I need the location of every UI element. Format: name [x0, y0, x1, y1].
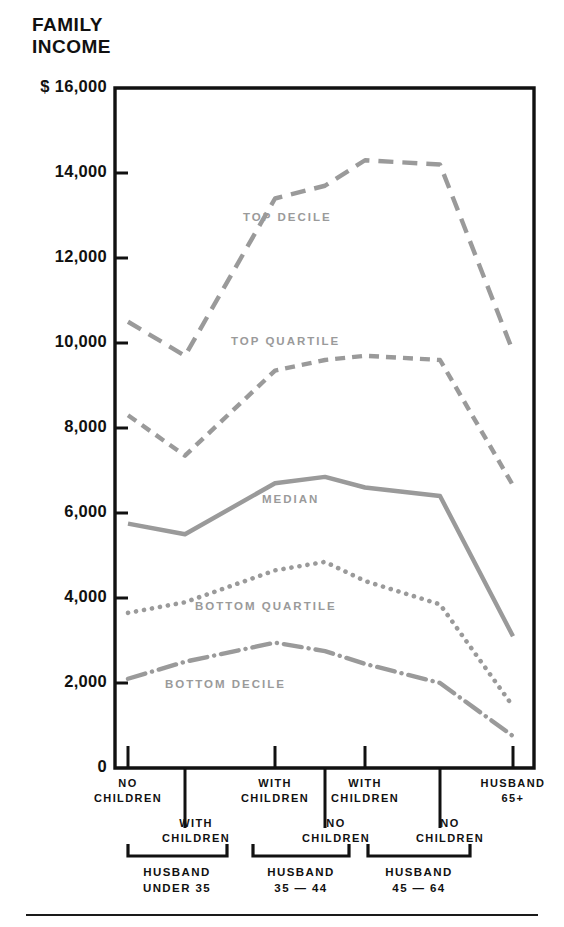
x-category-label: WITH CHILDREN [150, 816, 242, 846]
x-category-label: WITH CHILDREN [319, 776, 411, 806]
y-axis-tick-label: 12,000 [3, 247, 107, 266]
x-group-label: HUSBAND 45 — 64 [349, 864, 489, 896]
family-income-chart: FAMILY INCOME $ 16,00014,00012,00010,000… [0, 0, 564, 927]
series-label-bottom-decile: BOTTOM DECILE [165, 678, 286, 690]
y-axis-tick-label: 10,000 [3, 332, 107, 351]
series-label-median: MEDIAN [262, 493, 319, 505]
series-label-top-decile: TOP DECILE [243, 211, 332, 223]
series-line-top-quartile [128, 356, 513, 486]
y-axis-tick-label: 4,000 [3, 587, 107, 606]
series-line-top-decile [128, 160, 513, 356]
footer-divider [26, 914, 538, 916]
series-label-top-quartile: TOP QUARTILE [231, 335, 340, 347]
plot-frame [115, 88, 534, 768]
x-category-label: NO CHILDREN [404, 816, 496, 846]
y-axis-tick-label: 14,000 [3, 162, 107, 181]
x-category-label: HUSBAND 65+ [467, 776, 559, 806]
y-axis-tick-label: 2,000 [3, 672, 107, 691]
x-category-label: WITH CHILDREN [229, 776, 321, 806]
y-axis-tick-label: 0 [3, 757, 107, 776]
x-category-label: NO CHILDREN [82, 776, 174, 806]
x-group-label: HUSBAND UNDER 35 [107, 864, 247, 896]
series-line-median [128, 477, 513, 636]
y-axis-tick-label: $ 16,000 [3, 77, 107, 96]
x-category-label: NO CHILDREN [290, 816, 382, 846]
series-layer [128, 160, 513, 736]
y-axis-tick-label: 6,000 [3, 502, 107, 521]
y-axis-tick-label: 8,000 [3, 417, 107, 436]
series-label-bottom-quartile: BOTTOM QUARTILE [195, 600, 337, 612]
